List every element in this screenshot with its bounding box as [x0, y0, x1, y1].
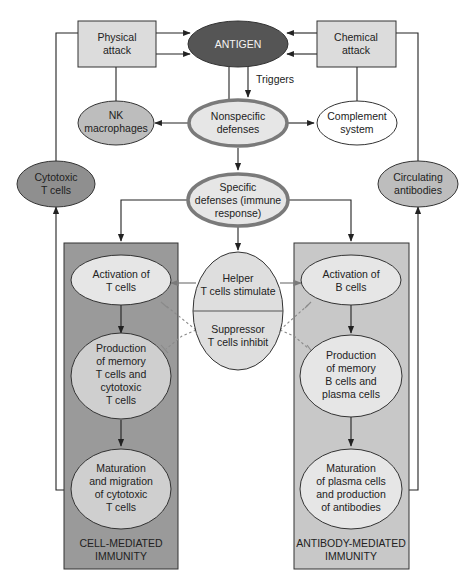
circulating-antibodies-node: Circulating antibodies: [378, 161, 458, 207]
svg-text:of plasma cells: of plasma cells: [316, 475, 385, 487]
immune-response-diagram: Physical attack Chemical attack ANTIGEN …: [0, 0, 474, 579]
svg-text:Circulating: Circulating: [393, 171, 443, 183]
svg-text:defenses (immune: defenses (immune: [195, 194, 282, 206]
svg-text:Cytotoxic: Cytotoxic: [34, 171, 77, 183]
svg-text:T cells inhibit: T cells inhibit: [208, 336, 269, 348]
maturation-plasma-cells-node: Maturation of plasma cells and productio…: [300, 449, 402, 529]
svg-text:system: system: [340, 123, 374, 135]
svg-text:Physical: Physical: [97, 31, 136, 43]
svg-text:Maturation: Maturation: [326, 462, 376, 474]
specific-to-cell-mediated-arrow: [121, 200, 188, 241]
svg-text:B cells and: B cells and: [325, 375, 377, 387]
svg-text:defenses: defenses: [217, 123, 260, 135]
svg-text:cytotoxic: cytotoxic: [101, 381, 142, 393]
svg-text:of antibodies: of antibodies: [321, 501, 381, 513]
svg-text:T cells: T cells: [106, 281, 136, 293]
svg-text:Production: Production: [96, 342, 146, 354]
svg-text:NK: NK: [109, 109, 124, 121]
suppressor-label: Suppressor: [211, 323, 265, 335]
svg-text:and production: and production: [316, 488, 386, 500]
svg-text:Nonspecific: Nonspecific: [211, 110, 265, 122]
specific-defenses-node: Specific defenses (immune response): [188, 174, 288, 226]
svg-text:T cells and: T cells and: [96, 368, 147, 380]
svg-text:attack: attack: [342, 44, 371, 56]
svg-text:T cells: T cells: [106, 501, 136, 513]
svg-text:Chemical: Chemical: [334, 31, 378, 43]
activation-b-cells-node: Activation of B cells: [301, 255, 401, 305]
svg-text:of memory: of memory: [96, 355, 146, 367]
svg-text:Specific: Specific: [220, 181, 257, 193]
nk-macrophages-node: NK macrophages: [78, 101, 154, 145]
svg-text:of cytotoxic: of cytotoxic: [95, 488, 148, 500]
activation-t-cells-node: Activation of T cells: [71, 255, 171, 305]
svg-text:and migration: and migration: [89, 475, 153, 487]
svg-text:of memory: of memory: [326, 362, 376, 374]
svg-text:Activation of: Activation of: [322, 268, 379, 280]
nonspecific-defenses-node: Nonspecific defenses: [189, 100, 287, 146]
svg-text:attack: attack: [103, 44, 132, 56]
svg-text:Maturation: Maturation: [96, 462, 146, 474]
svg-text:IMMUNITY: IMMUNITY: [325, 550, 377, 562]
helper-label: Helper: [223, 272, 254, 284]
svg-text:macrophages: macrophages: [84, 122, 148, 134]
triggers-label: Triggers: [256, 73, 294, 85]
complement-system-node: Complement system: [317, 101, 397, 145]
production-memory-b-cells-node: Production of memory B cells and plasma …: [300, 335, 402, 417]
antigen-node: ANTIGEN: [188, 21, 288, 67]
maturation-migration-t-cells-node: Maturation and migration of cytotoxic T …: [71, 449, 171, 529]
specific-to-antibody-mediated-arrow: [288, 200, 351, 241]
antibody-mediated-label: ANTIBODY-MEDIATED: [296, 537, 406, 549]
svg-text:T cells: T cells: [106, 394, 136, 406]
chemical-attack-box: Chemical attack: [317, 21, 396, 67]
svg-text:B cells: B cells: [336, 281, 367, 293]
svg-text:T cells: T cells: [41, 184, 71, 196]
svg-text:ANTIGEN: ANTIGEN: [215, 38, 262, 50]
svg-text:plasma cells: plasma cells: [322, 388, 380, 400]
svg-text:IMMUNITY: IMMUNITY: [95, 550, 147, 562]
helper-suppressor-node: Helper T cells stimulate Suppressor T ce…: [193, 252, 283, 370]
svg-text:Production: Production: [326, 349, 376, 361]
cell-mediated-label: CELL-MEDIATED: [79, 537, 163, 549]
svg-text:Activation of: Activation of: [92, 268, 149, 280]
svg-text:T cells stimulate: T cells stimulate: [200, 285, 275, 297]
physical-attack-box: Physical attack: [78, 21, 156, 67]
svg-text:response): response): [215, 207, 262, 219]
cytotoxic-t-cells-node: Cytotoxic T cells: [17, 161, 95, 207]
svg-text:Complement: Complement: [327, 110, 387, 122]
production-memory-t-cells-node: Production of memory T cells and cytotox…: [71, 333, 171, 419]
svg-text:antibodies: antibodies: [394, 184, 442, 196]
